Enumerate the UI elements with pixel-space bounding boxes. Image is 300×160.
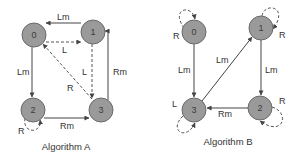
edge-label: Lm xyxy=(216,55,229,65)
svg-text:1: 1 xyxy=(90,27,95,37)
edge-b-2-3-rm: Rm xyxy=(207,108,248,119)
edge-label: Rm xyxy=(113,67,127,77)
node-b-3: 3 xyxy=(182,98,206,122)
node-b-0: 0 xyxy=(182,20,206,44)
edge-label: Lm xyxy=(178,65,191,75)
edge-label: R xyxy=(279,30,286,40)
node-a-2: 2 xyxy=(21,98,45,122)
svg-text:3: 3 xyxy=(98,105,103,115)
edge-label: Rm xyxy=(218,109,232,119)
diagram-algorithm-a: Lm L Lm R L Rm Rm xyxy=(17,12,127,152)
svg-text:1: 1 xyxy=(258,23,263,33)
svg-text:0: 0 xyxy=(191,27,196,37)
svg-text:2: 2 xyxy=(30,105,35,115)
diagram-algorithm-b: Lm Lm Lm Rm R R R xyxy=(172,8,286,147)
svg-text:2: 2 xyxy=(257,103,262,113)
svg-text:3: 3 xyxy=(191,105,196,115)
edge-label: Lm xyxy=(17,67,30,77)
edge-label: R xyxy=(18,126,25,136)
edge-a-3-1-rm: Rm xyxy=(105,31,127,100)
edge-label: Lm xyxy=(265,65,278,75)
algorithm-diagrams: Lm L Lm R L Rm Rm xyxy=(0,0,300,160)
node-b-1: 1 xyxy=(249,16,273,40)
svg-text:0: 0 xyxy=(31,30,36,40)
node-a-3: 3 xyxy=(89,98,113,122)
edge-label: L xyxy=(62,45,67,55)
edge-b-3-1-lm: Lm xyxy=(202,37,252,101)
edge-label: R xyxy=(173,31,180,41)
caption-algorithm-b: Algorithm B xyxy=(203,136,252,147)
edge-b-0-3-lm: Lm xyxy=(178,44,194,97)
edge-a-0-2-lm: Lm xyxy=(17,47,32,97)
edge-label: R xyxy=(67,83,74,93)
edge-label: L xyxy=(172,99,177,109)
edge-b-1-2-lm: Lm xyxy=(261,40,278,95)
node-b-2: 2 xyxy=(248,96,272,120)
edge-label: R xyxy=(279,96,286,106)
edge-a-2-3-rm: Rm xyxy=(44,118,89,131)
node-a-1: 1 xyxy=(81,20,105,44)
edge-a-1-0-lm: Lm xyxy=(46,12,81,23)
edge-label: Lm xyxy=(57,12,70,22)
edge-label: Rm xyxy=(60,121,74,131)
node-a-0: 0 xyxy=(22,23,46,47)
edge-label: L xyxy=(82,67,87,77)
caption-algorithm-a: Algorithm A xyxy=(42,141,91,152)
